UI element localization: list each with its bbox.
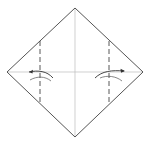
origami-diagram (0, 0, 152, 143)
left-fold-arrow-icon (29, 70, 53, 81)
diagram-svg (0, 0, 152, 143)
right-fold-arrow-icon (95, 69, 125, 81)
